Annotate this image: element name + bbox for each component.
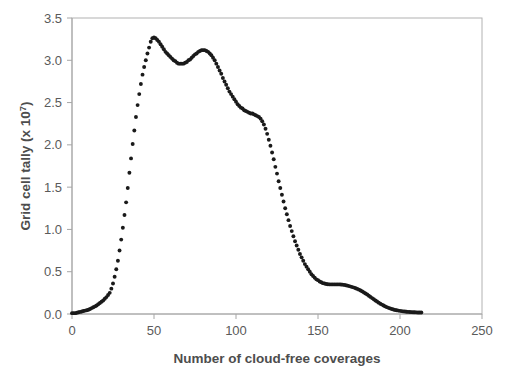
data-point [126,186,130,190]
y-axis-title-base: Grid cell tally (x 10 [18,111,33,230]
x-tick-label: 0 [68,323,75,338]
data-point [218,68,222,72]
data-point [223,79,227,83]
y-tick-label: 2.0 [44,137,62,152]
data-point [216,65,220,69]
data-point [296,248,300,252]
data-point [139,82,143,86]
y-axis-title-close-paren: ) [18,101,33,106]
data-point [129,156,133,160]
data-point [149,40,153,44]
data-point [131,142,135,146]
data-point [127,171,131,175]
y-tick-label: 0.0 [44,307,62,322]
y-axis-tick-labels: 0.00.51.01.52.02.53.03.5 [44,11,62,322]
data-point [262,123,266,127]
y-axis-title-group: Grid cell tally (x 107) [17,101,33,230]
y-tick-label: 3.5 [44,11,62,26]
data-point [291,234,295,238]
x-axis-tick-labels: 050100150200250 [68,323,492,338]
data-point [114,267,118,271]
data-point [226,86,230,90]
data-point [287,218,291,222]
data-point [113,275,117,279]
y-axis-ticks [67,18,72,314]
data-point [280,193,284,197]
data-point [121,226,125,230]
x-tick-label: 50 [147,323,161,338]
data-point [278,186,282,190]
data-point [275,172,279,176]
data-point [264,127,268,131]
data-point [213,58,217,62]
data-point [270,151,274,155]
data-point [118,249,122,253]
data-point [144,58,148,62]
data-point [288,224,292,228]
data-point [137,92,141,96]
data-point [300,255,304,259]
data-point [132,129,136,133]
data-point [123,213,127,217]
x-tick-label: 250 [471,323,493,338]
data-point [283,206,287,210]
data-point [277,179,281,183]
y-tick-label: 1.0 [44,222,62,237]
data-point [136,103,140,107]
cloud-free-coverage-scatter-chart: 0.00.51.01.52.02.53.03.5 050100150200250… [0,0,505,377]
y-tick-label: 1.5 [44,180,62,195]
data-point [142,65,146,69]
x-tick-label: 150 [307,323,329,338]
data-point [124,200,128,204]
data-point [260,119,264,123]
data-point [147,46,151,50]
data-point [109,287,113,291]
x-axis-title: Number of cloud-free coverages [173,351,380,366]
data-point [224,83,228,87]
data-point [134,115,138,119]
y-axis-title: Grid cell tally (x 107) [17,101,33,230]
chart-figure: 0.00.51.01.52.02.53.03.5 050100150200250… [0,0,505,377]
data-point [301,259,305,263]
data-point [265,132,269,136]
data-point [295,244,299,248]
data-point [116,259,120,263]
data-point [214,62,218,66]
data-point [111,282,115,286]
data-point [290,229,294,233]
data-point [272,157,276,161]
data-point [273,165,277,169]
x-tick-label: 100 [225,323,247,338]
data-point [282,200,286,204]
y-tick-label: 3.0 [44,53,62,68]
x-tick-label: 200 [389,323,411,338]
data-point [298,252,302,256]
data-point [219,72,223,76]
data-point [267,138,271,142]
x-axis-ticks [72,314,482,319]
data-point [419,311,423,315]
y-tick-label: 2.5 [44,95,62,110]
data-point [145,52,149,56]
data-point [285,212,289,216]
data-point [108,291,112,295]
data-point [221,76,225,80]
data-point [268,144,272,148]
y-tick-label: 0.5 [44,264,62,279]
data-point [141,73,145,77]
data-point [119,238,123,242]
data-point [293,239,297,243]
